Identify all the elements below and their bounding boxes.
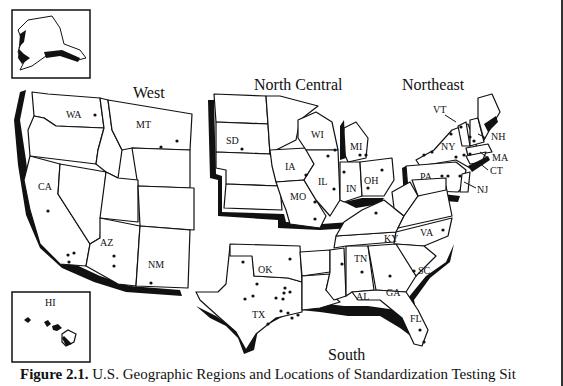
- state-label-az: AZ: [100, 237, 113, 248]
- state-label-ga: GA: [386, 287, 401, 298]
- state-nm: [136, 226, 190, 288]
- state-label-il: IL: [318, 176, 327, 187]
- state-label-al: AL: [356, 291, 369, 302]
- state-nd: [214, 94, 268, 124]
- state-label-nh: NH: [491, 131, 505, 142]
- state-label-wa: WA: [66, 109, 82, 120]
- region-title-west: West: [133, 84, 165, 101]
- state-label-ct: CT: [490, 165, 503, 176]
- region-title-south: South: [328, 346, 365, 363]
- state-label-ia: IA: [285, 161, 296, 172]
- state-label-sd: SD: [226, 135, 239, 146]
- state-label-ky: KY: [384, 233, 398, 244]
- state-label-mi: MI: [350, 141, 362, 152]
- alaska-inset: [12, 10, 90, 78]
- state-label-wi: WI: [311, 129, 324, 140]
- state-label-ok: OK: [258, 264, 273, 275]
- us-regions-map: HI West WA MT CA AZ NM: [0, 0, 563, 386]
- state-label-mo: MO: [290, 191, 306, 202]
- state-label-vt: VT: [433, 104, 446, 115]
- figure-caption-label: Figure 2.1.: [20, 366, 88, 382]
- region-title-north-central: North Central: [254, 76, 343, 93]
- state-label-sc: SC: [418, 265, 431, 276]
- state-label-oh: OH: [364, 175, 378, 186]
- state-label-hi: HI: [45, 297, 56, 308]
- region-title-northeast: Northeast: [402, 76, 465, 93]
- state-wy: [132, 148, 190, 188]
- region-north-central: North Central SD WI MI IA IL IN OH MO: [208, 76, 394, 230]
- state-co: [138, 186, 194, 230]
- state-label-ma: MA: [492, 152, 509, 163]
- state-ut: [100, 172, 138, 222]
- state-ks: [224, 184, 282, 210]
- hawaii-inset: HI: [12, 292, 90, 362]
- state-label-nm: NM: [148, 259, 164, 270]
- state-label-ca: CA: [38, 181, 53, 192]
- state-label-tx: TX: [252, 309, 266, 320]
- state-label-ny: NY: [441, 141, 455, 152]
- state-label-tn: TN: [354, 253, 367, 264]
- state-label-mt: MT: [136, 119, 151, 130]
- figure-caption: Figure 2.1. U.S. Geographic Regions and …: [20, 366, 516, 383]
- state-label-nj: NJ: [477, 184, 488, 195]
- region-west: West WA MT CA AZ NM: [14, 84, 194, 296]
- state-label-fl: FL: [410, 313, 422, 324]
- figure-caption-text: U.S. Geographic Regions and Locations of…: [88, 366, 515, 382]
- state-ar: [300, 250, 330, 276]
- state-label-in: IN: [346, 183, 357, 194]
- state-label-va: VA: [420, 227, 434, 238]
- state-in: [340, 162, 362, 202]
